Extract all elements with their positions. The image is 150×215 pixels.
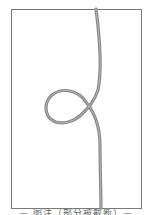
figure-frame xyxy=(12,10,142,209)
figure-caption: — 图注（部分被截断）— xyxy=(10,209,142,215)
loop-diagram xyxy=(0,0,150,215)
diagram-figure: — 图注（部分被截断）— xyxy=(0,0,150,215)
